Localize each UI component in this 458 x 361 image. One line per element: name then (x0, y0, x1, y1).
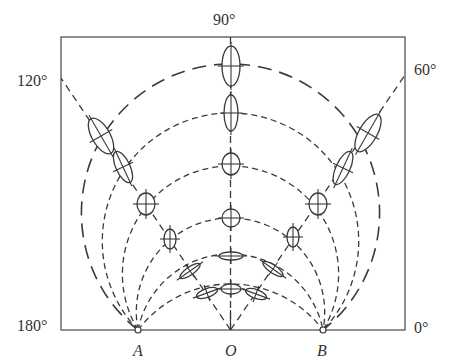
polarization-ellipse (133, 189, 159, 219)
polarization-ellipse (218, 42, 244, 90)
angle-label-90: 90° (213, 12, 235, 28)
point-label-b: B (317, 343, 327, 359)
angle-label-0: 0° (414, 320, 428, 336)
polarization-ellipse (218, 149, 244, 179)
polarization-ellipses (78, 42, 392, 307)
polarization-ellipse (305, 189, 331, 219)
polarization-ellipse (217, 280, 245, 298)
polarization-ellipse (218, 205, 244, 231)
polarization-ellipse (283, 223, 303, 251)
point-label-a: A (133, 343, 143, 359)
polarization-ellipse (190, 280, 224, 306)
point-b-marker (320, 327, 326, 333)
polarization-ellipse (215, 248, 247, 264)
angle-label-180: 180° (17, 318, 47, 334)
angle-label-120: 120° (17, 73, 47, 89)
polarization-ellipse (220, 91, 242, 135)
angle-label-60: 60° (414, 62, 436, 78)
polarization-diagram (0, 0, 458, 361)
point-a-marker (135, 327, 141, 333)
point-label-o: O (225, 343, 237, 359)
polarization-ellipse (255, 253, 290, 284)
